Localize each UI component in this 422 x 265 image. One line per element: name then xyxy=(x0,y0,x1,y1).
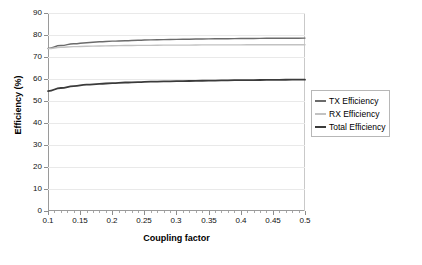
series-line-rx-efficiency xyxy=(48,45,305,49)
legend-label: TX Efficiency xyxy=(329,96,378,106)
x-axis-title: Coupling factor xyxy=(48,233,305,243)
legend-item-rx-efficiency: RX Efficiency xyxy=(314,107,386,120)
legend-item-tx-efficiency: TX Efficiency xyxy=(314,94,386,107)
chart-legend: TX Efficiency RX Efficiency Total Effici… xyxy=(311,90,390,137)
series-line-total-efficiency xyxy=(48,80,305,91)
y-axis-title: Efficiency (%) xyxy=(13,45,23,165)
legend-item-total-efficiency: Total Efficiency xyxy=(314,120,386,133)
legend-label: RX Efficiency xyxy=(329,109,379,119)
legend-label: Total Efficiency xyxy=(329,122,386,132)
legend-line-swatch-icon xyxy=(315,113,326,115)
legend-line-swatch-icon xyxy=(315,100,326,102)
legend-line-swatch-icon xyxy=(315,126,326,128)
chart-container: 0102030405060708090 0.10.150.20.250.30.3… xyxy=(0,0,422,265)
